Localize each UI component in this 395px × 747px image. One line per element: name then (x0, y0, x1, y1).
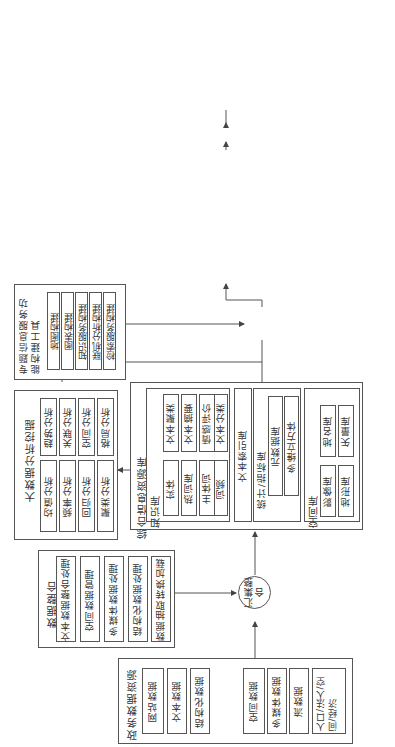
kb-sentiment: 情感评价 (199, 394, 215, 452)
source-multimedia-data: 多媒体数据 (267, 668, 287, 734)
association-analysis: 关联分析 (59, 398, 76, 456)
source-stream-data: 流数据 (289, 668, 309, 734)
kb-entity: 实体 (163, 460, 179, 516)
integration-multimedia-processing: 多媒体数据处理 (104, 556, 124, 642)
knowledge-base-title: 知识库 (148, 495, 163, 528)
metadata-db: 元数据库 (268, 396, 283, 496)
pattern-analysis: 格局分析 (97, 398, 114, 456)
sources-title: 政务数据资源 (124, 668, 139, 740)
spatial-analysis: 空间分析 (78, 398, 95, 456)
function-tools-title: 专题信息服务功能构建工具 (18, 290, 44, 374)
image-db: 影像库 (320, 465, 336, 517)
multidimensional-cube: 多维立方体 (284, 396, 299, 496)
map-build: 地图构建 (47, 292, 60, 370)
terrain-db: 地形库 (338, 465, 354, 517)
chart-build: 图表构建 (61, 292, 74, 370)
cluster-analysis: 聚类分析 (97, 460, 114, 532)
statistics-indicator-title: 统计/指标库 (255, 450, 269, 509)
source-website-data: 网站数据 (142, 668, 164, 734)
knowledge-service-build: 知识服务构建 (75, 292, 88, 370)
olap-build: 联机分析构建 (89, 292, 102, 370)
text-index-db: 文本索引库 (234, 388, 252, 522)
kb-subject-word: 主体词 (199, 460, 215, 516)
source-text-data: 文本数据 (167, 668, 187, 734)
kb-word-frequency: 词频 (214, 460, 228, 516)
trend-analysis: 趋势分析 (40, 398, 57, 456)
source-spatial-data: 空间数据 (243, 668, 265, 734)
kb-text-classification: 文本分类 (214, 394, 228, 452)
frequency-analysis: 频率分析 (59, 460, 76, 532)
search-service-build: 检索服务构建 (103, 292, 116, 370)
kb-text-clustering: 文本聚类 (163, 394, 179, 452)
integration-text-processing: 文本数据整合处理 (56, 556, 76, 642)
integration-spatial-management: 空间数据管理 (80, 556, 100, 642)
source-population-economy-data: 人口/法人/空间/经济 (312, 668, 346, 734)
kb-hotword: 热词库 (181, 460, 197, 516)
spatial-db-title: 空间库 (306, 495, 321, 528)
source-structured-data: 结构化数据 (190, 668, 210, 734)
mean-analysis: 均值分析 (40, 460, 57, 532)
integration-structured-processing: 结构化数据处理 (128, 556, 148, 642)
bigdata-mining-title: 大数据分析挖掘 (22, 418, 37, 502)
vector-db: 矢量库 (338, 405, 354, 457)
kb-text-summary: 文本摘要 (181, 394, 197, 452)
regression-analysis: 回归分析 (78, 460, 95, 532)
architecture-diagram: 政务数据资源 网站数据 文本数据 结构化数据 空间数据 多媒体数据 流数据 人口… (0, 0, 395, 747)
place-name-db: 地名库 (320, 405, 336, 457)
integration-etl: 数据抽取转换加载 (151, 556, 171, 642)
collect-integrate-node: 汇集整合 (238, 576, 271, 609)
